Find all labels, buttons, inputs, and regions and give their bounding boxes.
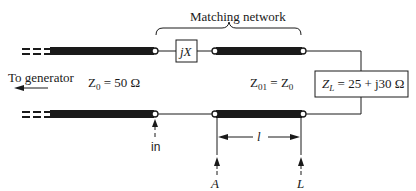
matching-network-label: Matching network <box>190 10 286 23</box>
z0-value: = 50 Ω <box>101 75 141 90</box>
to-generator-arrow-icon <box>14 85 48 91</box>
length-label: l <box>257 130 261 143</box>
input-arrow-icon <box>152 119 158 137</box>
jx-label: jX <box>180 45 192 58</box>
in-label: in <box>151 141 160 153</box>
z0-label: Z0 = 50 Ω <box>88 76 140 92</box>
z01-subscript-2: 0 <box>289 82 294 92</box>
z01-symbol: Z <box>250 75 258 90</box>
point-l-label: L <box>297 177 304 190</box>
point-a-label: A <box>211 177 219 190</box>
z01-equals: = Z <box>267 75 289 90</box>
circuit-diagram <box>0 0 416 191</box>
zl-value: = 25 + j30 Ω <box>334 76 404 91</box>
to-generator-label: To generator <box>8 71 74 84</box>
point-arrows <box>214 157 304 175</box>
zl-label: ZL = 25 + j30 Ω <box>322 77 404 93</box>
z01-label: Z01 = Z0 <box>250 76 293 92</box>
z0-symbol: Z <box>88 75 96 90</box>
z01-subscript: 01 <box>258 82 267 92</box>
